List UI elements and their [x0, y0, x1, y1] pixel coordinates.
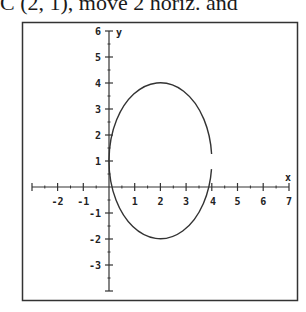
- y-tick-label: 4: [95, 78, 101, 89]
- x-tick-label: 2: [157, 196, 163, 207]
- x-tick-label: 4: [210, 196, 216, 207]
- y-tick-label: -3: [89, 260, 101, 271]
- plot-frame: [23, 23, 298, 301]
- y-tick-label: -2: [89, 234, 101, 245]
- y-tick-label: 5: [95, 52, 101, 63]
- y-tick-label: 1: [95, 156, 101, 167]
- y-tick-label: 6: [95, 26, 101, 37]
- ellipse-curve: [109, 83, 212, 239]
- y-tick-labels: 6 5 4 3 2 1 -1 -2 -3 y: [89, 26, 122, 271]
- x-tick-label: -1: [77, 196, 89, 207]
- x-tick-label: -2: [52, 196, 64, 207]
- x-tick-label: 6: [260, 196, 266, 207]
- x-tick-label: 5: [234, 196, 240, 207]
- y-tick-label: -1: [89, 208, 101, 219]
- x-tick-labels: -2 -1 1 2 3 4 5 6 7 x: [52, 172, 292, 207]
- x-axis-label: x: [285, 172, 291, 183]
- x-tick-label: 1: [132, 196, 138, 207]
- y-axis-label: y: [116, 27, 122, 38]
- x-tick-label: 3: [183, 196, 189, 207]
- x-axis: [32, 183, 289, 191]
- chart: -2 -1 1 2 3 4 5 6 7 x 6 5 4 3 2 1 -1 -2 …: [0, 0, 306, 312]
- y-tick-label: 3: [95, 104, 101, 115]
- y-tick-label: 2: [95, 130, 101, 141]
- x-tick-label: 7: [286, 196, 292, 207]
